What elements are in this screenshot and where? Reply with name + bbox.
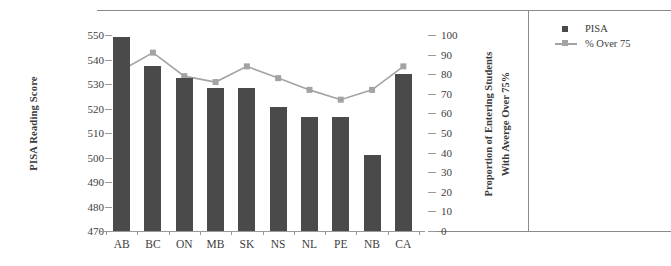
y-tick-mark-right [428, 35, 436, 36]
x-axis-label-ca: CA [383, 238, 423, 250]
legend-item-label: PISA [585, 23, 608, 34]
plot-area [106, 35, 419, 231]
legend-line-swatch [562, 40, 568, 46]
chart-legend: PISA% Over 75 [553, 22, 631, 52]
y-tick-label-left: 520 [64, 103, 104, 115]
y-tick-label-right: 100 [441, 29, 471, 41]
x-axis-labels: ABBCONMBSKNSNLPENBCA [106, 238, 419, 256]
bar-sk[interactable] [238, 88, 255, 231]
y-tick-label-left: 470 [64, 225, 104, 237]
y-tick-mark-right [428, 94, 436, 95]
y-tick-mark-right [428, 74, 436, 75]
bar-bc[interactable] [144, 66, 161, 231]
legend-item-pisa[interactable]: PISA [553, 22, 631, 35]
y-axis-right-title-line1: Proportion of Entering Students [483, 18, 499, 230]
y-tick-mark-right [428, 211, 436, 212]
y-axis-right-title-line2: With Averge Over 75% [500, 18, 516, 230]
bar-nb[interactable] [364, 155, 381, 231]
y-tick-label-right: 0 [441, 225, 471, 237]
legend-line-marker-icon [553, 38, 579, 50]
bar-mb[interactable] [207, 88, 224, 231]
y-tick-label-right: 70 [441, 88, 471, 100]
y-tick-label-right: 80 [441, 68, 471, 80]
y-tick-mark-right [428, 113, 436, 114]
line-marker-bc[interactable] [150, 50, 156, 56]
line-path-percent-over-75 [122, 53, 404, 100]
y-tick-label-left: 480 [64, 201, 104, 213]
y-tick-mark-right [428, 192, 436, 193]
y-tick-label-right: 30 [441, 166, 471, 178]
bar-ab[interactable] [113, 37, 130, 231]
y-tick-mark-right [428, 55, 436, 56]
line-marker-pe[interactable] [338, 97, 344, 103]
y-tick-mark-right [428, 153, 436, 154]
y-axis-right: 0102030405060708090100 [425, 35, 465, 231]
legend-item-over-75[interactable]: % Over 75 [553, 37, 631, 50]
y-axis-right-title: Proportion of Entering Students With Ave… [470, 18, 516, 230]
legend-square-icon [553, 23, 579, 35]
line-marker-mb[interactable] [213, 79, 219, 85]
y-tick-mark-right [428, 172, 436, 173]
y-tick-label-left: 550 [64, 29, 104, 41]
legend-panel-divider [528, 10, 529, 232]
y-tick-label-right: 40 [441, 147, 471, 159]
y-tick-label-right: 60 [441, 107, 471, 119]
y-tick-label-left: 490 [64, 176, 104, 188]
y-tick-label-left: 530 [64, 78, 104, 90]
bar-ns[interactable] [270, 107, 287, 231]
y-tick-label-right: 20 [441, 186, 471, 198]
line-marker-nl[interactable] [306, 87, 312, 93]
y-axis-left-title: PISA Reading Score [28, 29, 39, 219]
bar-nl[interactable] [301, 117, 318, 231]
y-tick-label-right: 10 [441, 205, 471, 217]
top-divider-rule [97, 10, 671, 11]
y-tick-label-left: 500 [64, 152, 104, 164]
legend-square-swatch [562, 26, 568, 32]
y-tick-mark-right [428, 133, 436, 134]
line-marker-ca[interactable] [400, 63, 406, 69]
legend-item-label: % Over 75 [585, 38, 631, 49]
line-marker-sk[interactable] [244, 63, 250, 69]
y-tick-label-right: 50 [441, 127, 471, 139]
y-tick-label-left: 540 [64, 54, 104, 66]
y-tick-label-right: 90 [441, 49, 471, 61]
y-axis-left: 470480490500510520530540550 [58, 35, 104, 231]
bar-on[interactable] [176, 78, 193, 231]
chart-figure: PISA Reading Score Proportion of Enterin… [0, 0, 671, 266]
bar-ca[interactable] [395, 74, 412, 231]
x-axis-baseline [100, 231, 425, 232]
line-marker-ns[interactable] [275, 75, 281, 81]
bar-pe[interactable] [332, 117, 349, 231]
line-marker-nb[interactable] [369, 87, 375, 93]
y-tick-label-left: 510 [64, 127, 104, 139]
y-tick-mark-right [428, 231, 436, 232]
